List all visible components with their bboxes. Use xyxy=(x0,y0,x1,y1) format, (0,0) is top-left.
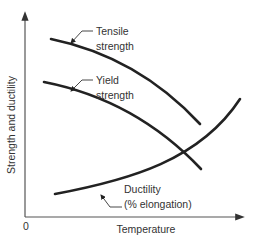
ductility-label-line2: (% elongation) xyxy=(124,198,192,210)
tensile-label-line2: strength xyxy=(96,40,134,52)
yield-label-line2: strength xyxy=(96,89,134,101)
chart-svg: Tensile strength Yield strength Ductilit… xyxy=(0,0,266,248)
chart: Tensile strength Yield strength Ductilit… xyxy=(0,0,266,248)
y-axis-label: Strength and ductility xyxy=(5,75,17,174)
ductility-label-line1: Ductility xyxy=(124,183,162,195)
tensile-label-line1: Tensile xyxy=(96,25,129,37)
tensile-leader-arrow xyxy=(71,31,93,43)
x-axis-label: Temperature xyxy=(117,223,176,235)
yield-label-line1: Yield xyxy=(96,74,119,86)
ductility-leader-arrow xyxy=(101,195,122,207)
ductility-curve xyxy=(55,99,240,194)
origin-label: 0 xyxy=(23,220,29,232)
